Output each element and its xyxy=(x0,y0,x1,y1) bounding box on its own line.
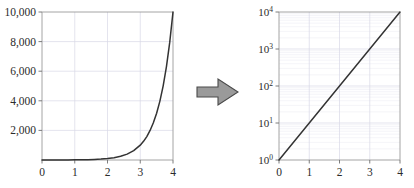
linear-y-tick-label: 8,000 xyxy=(10,36,36,49)
figure-exponential-comparison: 10,000 8,000 6,000 4,000 2,000 0 1 2 3 4 xyxy=(0,0,414,188)
linear-x-tick-labels: 0 1 2 3 4 xyxy=(39,166,176,178)
linear-y-tick-marks xyxy=(39,12,43,130)
linear-x-tick-label: 2 xyxy=(105,166,111,178)
linear-x-tick-label: 0 xyxy=(39,166,45,178)
linear-plot-svg: 10,000 8,000 6,000 4,000 2,000 0 1 2 3 4 xyxy=(0,0,195,188)
log-x-tick-marks xyxy=(279,160,400,164)
log-y-tick-mantissa: 10 xyxy=(258,117,270,129)
linear-x-tick-label: 4 xyxy=(170,166,176,178)
svg-text:101: 101 xyxy=(258,116,273,130)
svg-text:100: 100 xyxy=(258,153,273,167)
log-y-tick-marks xyxy=(276,12,280,160)
svg-text:103: 103 xyxy=(258,42,273,56)
log-y-tick-exponent: 1 xyxy=(269,116,273,125)
linear-axis-chart: 10,000 8,000 6,000 4,000 2,000 0 1 2 3 4 xyxy=(0,0,195,188)
linear-x-tick-label: 3 xyxy=(137,166,143,178)
log-x-tick-labels: 0 1 2 3 4 xyxy=(276,166,403,178)
log-y-tick-exponent: 4 xyxy=(269,5,273,14)
linear-y-tick-label: 4,000 xyxy=(10,95,36,108)
log-x-tick-label: 4 xyxy=(397,166,403,178)
log-y-tick-mantissa: 10 xyxy=(258,6,270,18)
log-y-tick-exponent: 0 xyxy=(269,153,273,162)
log-axis-chart: 104 103 102 101 100 0 1 2 3 xyxy=(240,0,414,188)
linear-y-tick-label: 10,000 xyxy=(4,6,36,19)
log-x-tick-label: 2 xyxy=(337,166,343,178)
log-x-tick-label: 1 xyxy=(306,166,312,178)
log-y-tick-labels: 104 103 102 101 100 xyxy=(258,5,273,167)
log-x-tick-label: 3 xyxy=(367,166,373,178)
arrow-shape xyxy=(197,79,238,105)
log-y-tick-exponent: 2 xyxy=(269,79,273,88)
log-plot-svg: 104 103 102 101 100 0 1 2 3 xyxy=(240,0,414,188)
right-block-arrow-icon xyxy=(196,76,240,108)
linear-x-tick-label: 1 xyxy=(72,166,78,178)
svg-text:104: 104 xyxy=(258,5,273,19)
log-y-tick-mantissa: 10 xyxy=(258,154,270,166)
linear-y-tick-label: 2,000 xyxy=(10,124,36,137)
svg-text:102: 102 xyxy=(258,79,273,93)
log-x-tick-label: 0 xyxy=(276,166,282,178)
linear-y-tick-label: 6,000 xyxy=(10,65,36,78)
linear-y-tick-labels: 10,000 8,000 6,000 4,000 2,000 xyxy=(4,6,36,137)
transform-arrow xyxy=(196,76,240,108)
log-y-tick-mantissa: 10 xyxy=(258,80,270,92)
log-y-tick-mantissa: 10 xyxy=(258,43,270,55)
log-y-tick-exponent: 3 xyxy=(269,42,273,51)
